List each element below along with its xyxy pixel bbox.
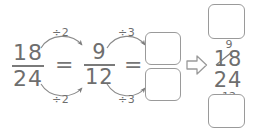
worked-answer-box-above[interactable]: [208, 4, 245, 39]
fraction-intermediate-numerator: 9: [91, 42, 107, 63]
operation-label-divide-by-3-bottom: ÷3: [118, 93, 135, 106]
worked-cancelled-numerator: 18: [214, 49, 243, 70]
operation-label-divide-by-2-top: ÷2: [52, 26, 69, 39]
equals-sign-1: =: [55, 54, 73, 76]
fraction-original: 18 24: [12, 42, 44, 90]
worked-answer-box-below[interactable]: [208, 94, 245, 128]
fraction-original-denominator: 24: [12, 68, 44, 90]
fraction-worksheet: 18 24 = 9 12 = ÷2 ÷2 ÷3 ÷3 9 18 24: [0, 0, 257, 131]
worked-cancelled-denominator-text: 24: [214, 68, 243, 92]
worked-solution-fraction: 9 18 24 12: [206, 39, 250, 102]
worked-cancelled-denominator: 24: [214, 70, 243, 91]
fraction-intermediate-denominator: 12: [84, 67, 115, 88]
equals-sign-2: =: [124, 54, 142, 76]
fraction-intermediate: 9 12: [84, 42, 115, 88]
answer-box-denominator[interactable]: [145, 68, 181, 101]
answer-box-numerator[interactable]: [145, 32, 181, 65]
operation-label-divide-by-2-bottom: ÷2: [52, 93, 69, 106]
operation-label-divide-by-3-top: ÷3: [118, 26, 135, 39]
transition-arrow-icon: [186, 53, 208, 77]
fraction-original-numerator: 18: [12, 42, 44, 64]
